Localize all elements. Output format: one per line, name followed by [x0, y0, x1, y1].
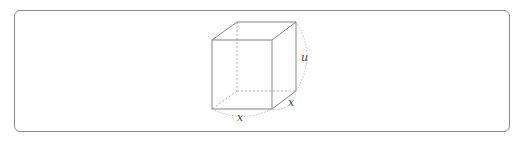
hidden-edges	[212, 22, 296, 109]
cube-diagram: x x u	[0, 0, 518, 142]
label-u: u	[301, 51, 308, 64]
label-side-x: x	[288, 96, 295, 109]
label-front-x: x	[237, 111, 244, 124]
visible-edges	[212, 22, 296, 109]
